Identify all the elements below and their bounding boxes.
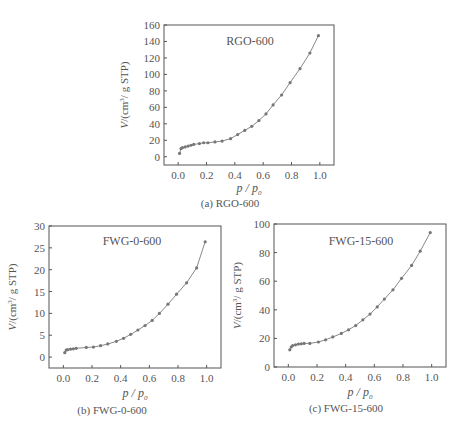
data-point [229,137,232,140]
y-tick-label: 10 [34,307,46,319]
chart-title: FWG-0-600 [103,234,162,248]
data-point [300,342,303,345]
data-point [368,312,371,315]
chart-c-svg: 0.00.20.40.60.81.0020406080100FWG-15-600… [231,215,463,427]
data-point [250,125,253,128]
y-tick-label: 20 [34,264,46,276]
data-point [288,348,291,351]
y-tick-label: 80 [259,247,271,259]
y-tick-label: 140 [144,35,161,47]
data-point [391,288,394,291]
y-tick-label: 100 [254,218,271,230]
data-point [288,81,291,84]
data-point [376,305,379,308]
x-tick-label: 0.4 [339,371,353,383]
data-point [340,332,343,335]
data-point [383,297,386,300]
data-point [236,133,239,136]
data-point [271,103,274,106]
y-tick-label: 60 [149,101,161,113]
data-point [419,250,422,253]
data-point [317,340,320,343]
x-axis-label: p / p0 [236,181,262,197]
x-tick-label: 1.0 [313,169,327,181]
y-tick-label: 40 [149,118,161,130]
data-point [206,141,209,144]
y-axis-label: V/(cm3/ g STP) [231,262,244,329]
chart-a-svg: 0.00.20.40.60.81.0020406080100120140160R… [0,0,463,215]
chart-title: FWG-15-600 [329,234,394,248]
data-point [280,93,283,96]
series-line [290,233,430,350]
data-point [347,328,350,331]
data-point [264,112,267,115]
data-point [69,348,72,351]
data-point [72,347,75,350]
y-axis-label: V/(cm3/ g STP) [6,263,19,330]
data-point [429,231,432,234]
data-point [189,144,192,147]
data-point [175,293,178,296]
data-point [220,140,223,143]
data-point [185,281,188,284]
data-point [354,324,357,327]
y-tick-label: 0 [155,151,161,163]
x-axis-label: p / p0 [122,386,148,402]
series-line [65,242,205,353]
data-point [151,319,154,322]
x-tick-label: 0.6 [256,169,270,181]
data-point [115,340,118,343]
chart-b: 0.00.20.40.60.81.0051015202530FWG-0-600p… [0,215,231,427]
figure-caption: (c) FWG-15-600 [309,402,384,415]
y-tick-label: 5 [40,329,46,341]
x-tick-label: 0.8 [396,371,410,383]
data-point [99,344,102,347]
data-point [198,142,201,145]
x-tick-label: 0.2 [200,169,214,181]
figure-caption: (a) RGO-600 [201,197,260,210]
chart-a: 0.00.20.40.60.81.0020406080100120140160R… [0,0,463,215]
y-tick-label: 40 [259,304,271,316]
data-point [195,266,198,269]
y-tick-label: 100 [144,68,161,80]
y-tick-label: 15 [34,286,46,298]
data-point [166,303,169,306]
data-point [85,346,88,349]
data-point [184,145,187,148]
y-tick-label: 25 [34,242,46,254]
y-tick-label: 120 [144,52,161,64]
data-point [181,146,184,149]
x-tick-label: 0.8 [171,372,185,384]
data-point [400,277,403,280]
x-tick-label: 1.0 [425,371,439,383]
data-point [257,119,260,122]
y-tick-label: 60 [259,275,271,287]
data-point [202,141,205,144]
chart-title: RGO-600 [226,34,273,48]
data-point [75,347,78,350]
x-tick-label: 0.4 [228,169,242,181]
y-tick-label: 0 [40,351,46,363]
x-axis-label: p / p0 [347,385,373,401]
data-point [158,312,161,315]
data-point [308,342,311,345]
y-tick-label: 0 [265,361,271,373]
x-tick-label: 0.0 [56,372,70,384]
data-point [66,348,69,351]
x-tick-label: 0.4 [114,372,128,384]
x-tick-label: 0.0 [281,371,295,383]
data-point [192,143,195,146]
x-tick-label: 0.6 [142,372,156,384]
data-point [308,51,311,54]
x-tick-label: 0.0 [171,169,185,181]
x-tick-label: 1.0 [200,372,214,384]
data-point [297,343,300,346]
chart-b-svg: 0.00.20.40.60.81.0051015202530FWG-0-600p… [0,215,231,427]
x-tick-label: 0.6 [367,371,381,383]
data-point [410,264,413,267]
data-point [298,67,301,70]
data-point [92,345,95,348]
y-tick-label: 30 [34,220,46,232]
data-point [294,343,297,346]
x-tick-label: 0.2 [310,371,324,383]
